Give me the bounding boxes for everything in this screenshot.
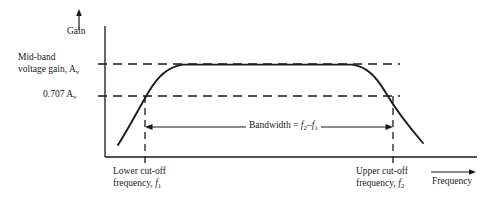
upper-cutoff-subscript: 2	[401, 182, 405, 190]
x-axis-arrow-icon	[431, 169, 476, 174]
midband-gain-label: Mid-band voltage gain, Av	[18, 52, 79, 76]
upper-cutoff-label: Upper cut-off frequency, f2	[356, 166, 408, 190]
midband-gain-label-line1: Mid-band	[18, 52, 55, 62]
half-power-gain-label: 0.707 Av	[43, 89, 77, 102]
y-axis-label: Gain	[67, 26, 85, 38]
bandwidth-label: Bandwidth = f2–f1	[246, 120, 321, 133]
x-axis-label: Frequency	[432, 176, 472, 188]
lower-cutoff-label-line1: Lower cut-off	[113, 166, 166, 176]
upper-cutoff-label-line1: Upper cut-off	[356, 166, 408, 176]
gain-response-curve	[118, 65, 423, 145]
x-axis-label-text: Frequency	[432, 176, 472, 186]
bandwidth-f2-subscript: 2	[303, 124, 307, 132]
figure-container: Gain Mid-band voltage gain, Av 0.707 Av …	[0, 0, 500, 202]
upper-cutoff-label-line2: frequency,	[356, 178, 398, 188]
midband-gain-label-line2: voltage gain, A	[18, 64, 76, 74]
bandwidth-f1-subscript: 1	[314, 124, 318, 132]
half-power-gain-label-text: 0.707 A	[43, 89, 73, 99]
bandwidth-label-prefix: Bandwidth =	[249, 120, 301, 130]
midband-gain-subscript: v	[76, 68, 80, 76]
lower-cutoff-subscript: 1	[158, 182, 162, 190]
y-axis-label-text: Gain	[67, 26, 85, 36]
lower-cutoff-label-line2: frequency,	[113, 178, 155, 188]
half-power-gain-subscript: v	[73, 93, 77, 101]
lower-cutoff-label: Lower cut-off frequency, f1	[113, 166, 166, 190]
